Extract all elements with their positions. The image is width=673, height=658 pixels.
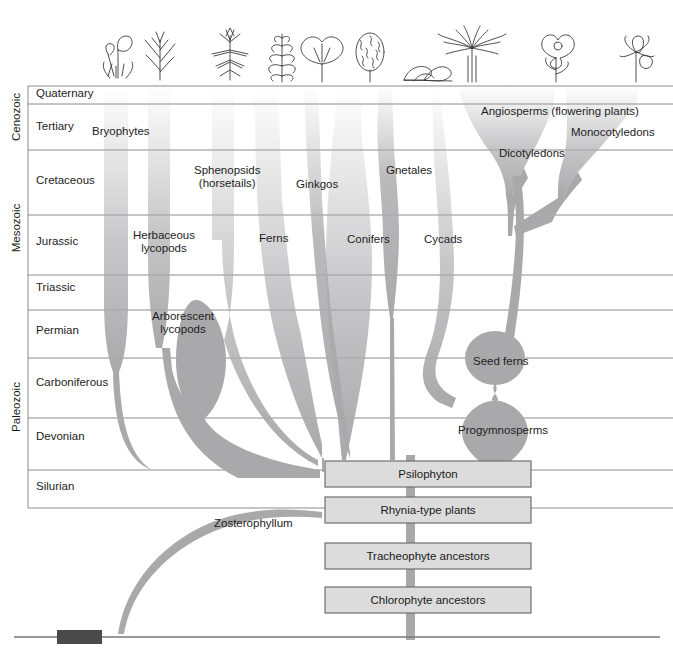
clade-label-zosterophyllum: Zosterophyllum [214, 517, 293, 530]
clade-label-ginkgos: Ginkgos [296, 178, 338, 191]
clade-label-dicotyledons: Dicotyledons [499, 147, 565, 160]
era-label-cenozoic: Cenozoic [10, 89, 22, 145]
clade-label-angiosperms: Angiosperms (flowering plants) [481, 105, 639, 118]
box-label-tracheophyte-ancestors[interactable]: Tracheophyte ancestors [325, 543, 531, 569]
box-label-rhynia-type-plants[interactable]: Rhynia-type plants [325, 497, 531, 523]
clade-label-progymnosperms: Progymnosperms [458, 424, 548, 437]
clade-label-bryophytes: Bryophytes [92, 125, 150, 138]
clade-label-arborescent-lycopods: Arborescent lycopods [152, 310, 214, 336]
clade-label-gnetales: Gnetales [386, 164, 432, 177]
period-label-quaternary: Quaternary [36, 87, 94, 100]
period-label-silurian: Silurian [36, 480, 74, 493]
clade-label-conifers: Conifers [347, 233, 390, 246]
clade-label-seed-ferns: Seed ferns [473, 355, 529, 368]
period-label-permian: Permian [36, 324, 79, 337]
period-label-cretaceous: Cretaceous [36, 174, 95, 187]
period-label-jurassic: Jurassic [36, 235, 78, 248]
era-label-paleozoic: Paleozoic [10, 341, 22, 473]
period-label-carboniferous: Carboniferous [36, 376, 108, 389]
figure-canvas: Cenozoic Mesozoic Paleozoic Quaternary T… [0, 0, 673, 658]
period-label-devonian: Devonian [36, 430, 85, 443]
box-label-psilophyton[interactable]: Psilophyton [325, 461, 531, 487]
era-label-mesozoic: Mesozoic [10, 172, 22, 284]
period-label-tertiary: Tertiary [36, 120, 74, 133]
period-label-triassic: Triassic [36, 281, 75, 294]
clade-label-ferns: Ferns [259, 232, 288, 245]
clade-label-monocotyledons: Monocotyledons [571, 126, 655, 139]
box-label-chlorophyte-ancestors[interactable]: Chlorophyte ancestors [325, 587, 531, 613]
clade-label-herbaceous-lycopods: Herbaceous lycopods [133, 229, 195, 255]
clade-label-cycads: Cycads [424, 233, 462, 246]
clade-label-sphenopsids: Sphenopsids (horsetails) [194, 164, 261, 190]
footer-marker [57, 630, 102, 644]
